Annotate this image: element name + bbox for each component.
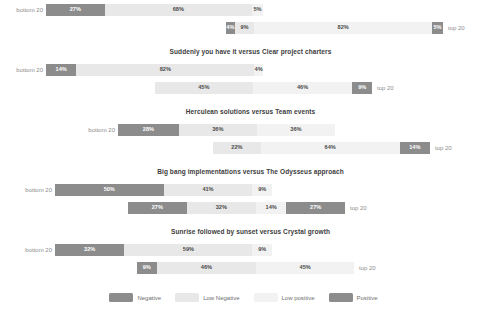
bar-row: 32%59%9%bottom 20 [0,244,501,256]
bar-segment-label: 28% [143,127,154,133]
bar-segment-label: 32% [84,247,95,253]
bar-segment[interactable]: 46% [157,262,257,274]
panel-title: Herculean solutions versus Team events [0,108,501,115]
bar-segment[interactable]: 9% [352,82,372,94]
bar-segment-label: 14% [56,67,67,73]
legend-item[interactable]: Low positive [254,293,329,302]
bar-segment[interactable]: 9% [235,22,255,34]
bar-segment[interactable]: 68% [105,4,253,16]
stacked-bar[interactable]: 45%46%9% [155,82,372,94]
bar-segment-label: 45% [300,265,311,271]
bar-row: 50%41%9%bottom 20 [0,184,501,196]
bar-segment-label: 22% [231,145,242,151]
stacked-bar[interactable]: 50%41%9% [55,184,272,196]
axis-label-top-20: top 20 [377,82,394,94]
bar-segment-label: 27% [70,7,81,13]
bar-segment[interactable]: 22% [213,142,261,154]
bar-segment-label: 41% [202,187,213,193]
bar-segment-label: 46% [297,85,308,91]
bar-segment[interactable]: 27% [128,202,187,214]
axis-label-top-20: top 20 [359,262,376,274]
legend-swatch-icon [329,293,353,302]
bar-segment-label: 45% [198,85,209,91]
legend-item[interactable]: Low Negative [175,293,253,302]
bar-segment[interactable]: 27% [286,202,345,214]
bar-segment[interactable]: 64% [261,142,400,154]
axis-label-top-20: top 20 [435,142,452,154]
bar-segment[interactable]: 5% [432,22,443,34]
bar-segment-label: 27% [152,205,163,211]
axis-label-bottom-20: bottom 20 [16,4,43,16]
bar-segment[interactable]: 4% [254,64,263,76]
stacked-bar[interactable]: 27%32%14%27% [128,202,345,214]
bar-segment[interactable]: 28% [118,124,179,136]
bar-segment[interactable]: 9% [252,184,272,196]
likert-diverging-bar-chart: 27%68%5%bottom 204%9%82%5%top 20Suddenly… [0,0,501,317]
axis-label-bottom-20: bottom 20 [16,64,43,76]
axis-label-bottom-20: bottom 20 [88,124,115,136]
stacked-bar[interactable]: 28%36%36% [118,124,335,136]
legend-swatch-icon [109,293,133,302]
bar-segment[interactable]: 32% [187,202,256,214]
bar-segment[interactable]: 46% [253,82,353,94]
bar-segment-label: 9% [240,25,248,31]
bar-segment[interactable]: 82% [254,22,432,34]
bar-segment[interactable]: 9% [137,262,157,274]
bar-segment-label: 14% [266,205,277,211]
bar-segment[interactable]: 5% [252,4,263,16]
bar-segment-label: 64% [325,145,336,151]
bar-segment-label: 27% [310,205,321,211]
chart-legend: NegativeLow NegativeLow positivePositive [0,293,501,302]
bar-segment-label: 5% [434,25,442,31]
panel-title: Big bang implementations versus The Odys… [0,168,501,175]
bar-segment[interactable]: 36% [257,124,335,136]
bar-segment[interactable]: 4% [226,22,235,34]
legend-item[interactable]: Positive [329,293,392,302]
bar-row: 27%32%14%27%top 20 [0,202,501,214]
bar-segment[interactable]: 9% [252,244,272,256]
stacked-bar[interactable]: 14%82%4% [46,64,263,76]
bar-row: 27%68%5%bottom 20 [0,4,501,16]
bar-segment[interactable]: 27% [46,4,105,16]
bar-segment[interactable]: 14% [256,202,286,214]
bar-segment[interactable]: 41% [164,184,253,196]
bar-segment[interactable]: 82% [76,64,254,76]
bar-segment[interactable]: 14% [400,142,430,154]
legend-item[interactable]: Negative [109,293,175,302]
bar-segment[interactable]: 32% [55,244,124,256]
bar-row: 28%36%36%bottom 20 [0,124,501,136]
bar-segment-label: 9% [358,85,366,91]
bar-segment[interactable]: 14% [46,64,76,76]
stacked-bar[interactable]: 4%9%82%5% [226,22,443,34]
stacked-bar[interactable]: 27%68%5% [46,4,263,16]
axis-label-top-20: top 20 [448,22,465,34]
bar-segment[interactable]: 50% [55,184,164,196]
stacked-bar[interactable]: 22%64%14% [213,142,430,154]
bar-segment-label: 14% [409,145,420,151]
legend-label: Positive [357,295,378,301]
panel-title: Suddenly you have it versus Clear projec… [0,48,501,55]
bar-segment-label: 9% [143,265,151,271]
stacked-bar[interactable]: 9%46%45% [137,262,354,274]
panel-title: Sunrise followed by sunset versus Crysta… [0,228,501,235]
bar-segment[interactable]: 45% [256,262,354,274]
bar-segment-label: 82% [160,67,171,73]
bar-segment-label: 68% [173,7,184,13]
bar-row: 14%82%4%bottom 20 [0,64,501,76]
legend-label: Low Negative [203,295,239,301]
axis-label-bottom-20: bottom 20 [25,184,52,196]
bar-row: 4%9%82%5%top 20 [0,22,501,34]
bar-segment-label: 4% [255,67,263,73]
bar-segment[interactable]: 36% [179,124,257,136]
stacked-bar[interactable]: 32%59%9% [55,244,272,256]
bar-segment-label: 46% [201,265,212,271]
legend-swatch-icon [175,293,199,302]
bar-segment-label: 50% [104,187,115,193]
bar-row: 9%46%45%top 20 [0,262,501,274]
bar-segment[interactable]: 59% [124,244,252,256]
bar-segment[interactable]: 45% [155,82,253,94]
axis-label-bottom-20: bottom 20 [25,244,52,256]
bar-segment-label: 32% [216,205,227,211]
bar-segment-label: 9% [258,187,266,193]
bar-segment-label: 9% [258,247,266,253]
